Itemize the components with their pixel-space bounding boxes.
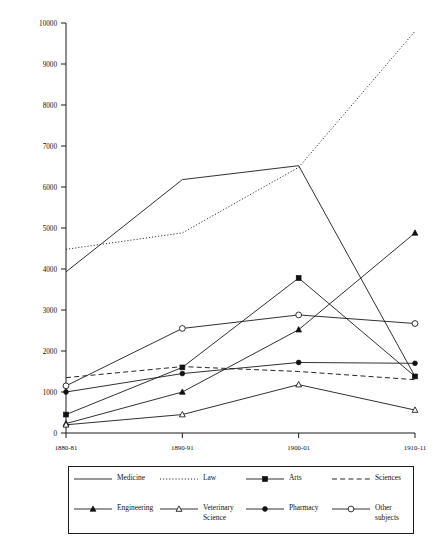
series-line	[66, 385, 415, 425]
legend-item-other-subjects[interactable]: Other subjects	[327, 501, 413, 531]
legend-item-veterinary-science[interactable]: Veterinary Science	[155, 501, 241, 531]
series-other-subjects	[63, 312, 418, 389]
series-group	[63, 31, 418, 427]
legend-row-second: EngineeringVeterinary SciencePharmacyOth…	[69, 501, 413, 531]
x-tick-group: 1880-811890-911900-011910-11	[55, 433, 427, 451]
data-point-marker	[413, 361, 418, 366]
solid-line-swatch	[72, 472, 114, 486]
data-point-marker	[64, 412, 69, 417]
y-tick-group: 0100020003000400050006000700080009000100…	[39, 20, 66, 438]
x-axis: 1880-811890-911900-011910-11	[55, 433, 427, 451]
line-chart-figure: 0100020003000400050006000700080009000100…	[0, 0, 436, 545]
data-point-marker	[296, 360, 301, 365]
series-arts	[64, 276, 418, 417]
legend-item-medicine[interactable]: Medicine	[69, 471, 155, 501]
circle-open-marker-swatch	[330, 502, 372, 516]
data-point-marker	[296, 276, 301, 281]
legend-row-first: MedicineLawArtsSciences	[69, 471, 413, 501]
x-tick-label: 1910-11	[404, 444, 426, 451]
legend-label: Law	[203, 471, 216, 483]
data-point-marker	[296, 382, 302, 387]
data-point-marker	[412, 321, 418, 327]
legend-marker	[348, 506, 354, 512]
data-point-marker	[413, 374, 418, 379]
series-line	[66, 278, 415, 415]
legend-item-pharmacy[interactable]: Pharmacy	[241, 501, 327, 531]
series-medicine	[66, 166, 415, 377]
x-tick-label: 1900-01	[287, 444, 310, 451]
dashed-line-swatch	[330, 472, 372, 486]
legend-marker	[263, 477, 268, 482]
data-point-marker	[296, 312, 302, 318]
triangle-open-marker-swatch	[158, 502, 200, 516]
legend-label: Medicine	[117, 471, 145, 483]
y-tick-label: 2000	[43, 348, 58, 356]
series-line	[66, 166, 415, 377]
triangle-open-marker-swatch	[158, 502, 200, 516]
y-tick-label: 7000	[43, 143, 58, 151]
data-point-marker	[412, 230, 418, 235]
plot-area: 0100020003000400050006000700080009000100…	[0, 0, 436, 470]
chart-legend: MedicineLawArtsSciences EngineeringVeter…	[68, 466, 414, 534]
dotted-line-swatch	[158, 472, 200, 486]
series-line	[66, 367, 415, 380]
legend-label: Arts	[289, 471, 302, 483]
y-tick-label: 0	[53, 430, 57, 438]
circle-filled-marker-swatch	[244, 502, 286, 516]
square-marker-swatch	[244, 472, 286, 486]
series-line	[66, 233, 415, 424]
y-tick-label: 10000	[39, 20, 57, 28]
legend-item-sciences[interactable]: Sciences	[327, 471, 413, 501]
circle-open-marker-swatch	[330, 502, 372, 516]
series-line	[66, 31, 415, 249]
legend-label: Sciences	[375, 471, 401, 483]
legend-item-engineering[interactable]: Engineering	[69, 501, 155, 531]
legend-label: Veterinary Science	[203, 501, 234, 522]
data-point-marker	[180, 365, 185, 370]
legend-item-arts[interactable]: Arts	[241, 471, 327, 501]
series-line	[66, 315, 415, 386]
series-pharmacy	[64, 360, 418, 394]
series-veterinary-science	[63, 382, 418, 428]
data-point-marker	[179, 326, 185, 332]
legend-label: Pharmacy	[289, 501, 319, 513]
series-sciences	[66, 367, 415, 380]
solid-line-swatch	[72, 472, 114, 486]
legend-label: Engineering	[117, 501, 153, 513]
circle-filled-marker-swatch	[244, 502, 286, 516]
triangle-filled-marker-swatch	[72, 502, 114, 516]
y-tick-label: 9000	[43, 61, 58, 69]
data-point-marker	[63, 383, 69, 389]
y-tick-label: 5000	[43, 225, 58, 233]
y-tick-label: 8000	[43, 102, 58, 110]
data-point-marker	[296, 327, 302, 332]
data-point-marker	[179, 389, 185, 394]
series-engineering	[63, 230, 418, 426]
triangle-filled-marker-swatch	[72, 502, 114, 516]
data-point-marker	[180, 371, 185, 376]
series-line	[66, 362, 415, 392]
y-tick-label: 3000	[43, 307, 58, 315]
square-marker-swatch	[244, 472, 286, 486]
data-point-marker	[64, 390, 69, 395]
series-law	[66, 31, 415, 249]
y-tick-label: 6000	[43, 184, 58, 192]
dotted-line-swatch	[158, 472, 200, 486]
y-tick-label: 4000	[43, 266, 58, 274]
legend-item-law[interactable]: Law	[155, 471, 241, 501]
dashed-line-swatch	[330, 472, 372, 486]
x-tick-label: 1880-81	[55, 444, 78, 451]
y-tick-label: 1000	[43, 389, 58, 397]
legend-label: Other subjects	[375, 501, 399, 522]
x-tick-label: 1890-91	[171, 444, 194, 451]
y-axis: 0100020003000400050006000700080009000100…	[39, 20, 66, 438]
legend-marker	[263, 507, 268, 512]
